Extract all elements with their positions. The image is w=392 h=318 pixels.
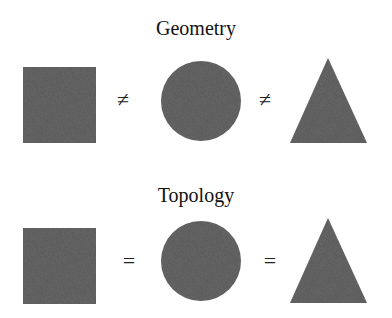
equal-operator-2: =: [255, 248, 285, 274]
topology-title: Topology: [0, 184, 392, 207]
geometry-title: Geometry: [0, 17, 392, 40]
geometry-triangle: [290, 58, 367, 143]
topology-square: [23, 228, 96, 304]
shapes-canvas: [0, 0, 392, 318]
equal-operator-1: =: [114, 248, 144, 274]
topology-circle: [161, 221, 241, 301]
topology-triangle: [290, 218, 367, 303]
not-equal-operator-1: ≠: [108, 87, 138, 113]
geometry-circle: [161, 61, 241, 141]
geometry-square: [23, 67, 96, 143]
not-equal-operator-2: ≠: [250, 87, 280, 113]
